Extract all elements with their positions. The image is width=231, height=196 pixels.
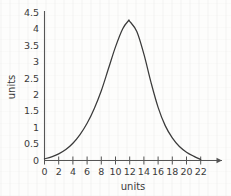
x-tick-label: 14 — [138, 166, 150, 177]
x-tick-label: 0 — [41, 166, 47, 177]
y-axis-title: units — [6, 75, 17, 100]
x-tick-label: 20 — [180, 166, 192, 177]
y-tick-label: 2.5 — [24, 73, 39, 84]
x-tick-label: 6 — [84, 166, 90, 177]
chart-svg: 4.5 4 3.5 3 2.5 2 1.5 1 0.5 0 — [0, 0, 231, 196]
x-tick-label: 22 — [195, 166, 207, 177]
y-tick-label: 1 — [33, 122, 39, 133]
y-tick-label: 0.5 — [24, 138, 39, 149]
x-axis-tick-labels: 0 2 4 6 8 10 12 14 16 18 20 22 — [41, 166, 206, 177]
x-tick-label: 4 — [70, 166, 76, 177]
bell-curve-line — [45, 20, 201, 160]
x-tick-label: 12 — [124, 166, 136, 177]
y-tick-label: 1.5 — [24, 105, 39, 116]
x-tick-label: 18 — [166, 166, 178, 177]
y-tick-label: 4.5 — [24, 7, 39, 18]
bell-curve-chart: 4.5 4 3.5 3 2.5 2 1.5 1 0.5 0 — [0, 0, 231, 196]
y-tick-label: 0 — [33, 155, 39, 166]
x-axis-arrow-icon — [217, 158, 223, 163]
y-tick-label: 3 — [33, 56, 39, 67]
y-tick-label: 3.5 — [24, 40, 39, 51]
y-axis-tick-labels: 4.5 4 3.5 3 2.5 2 1.5 1 0.5 0 — [24, 7, 39, 166]
y-tick-label: 4 — [33, 23, 39, 34]
x-axis-title: units — [121, 181, 146, 192]
y-tick-label: 2 — [33, 89, 39, 100]
x-tick-label: 2 — [56, 166, 62, 177]
x-tick-label: 16 — [152, 166, 164, 177]
x-tick-label: 8 — [98, 166, 104, 177]
x-tick-label: 10 — [109, 166, 121, 177]
